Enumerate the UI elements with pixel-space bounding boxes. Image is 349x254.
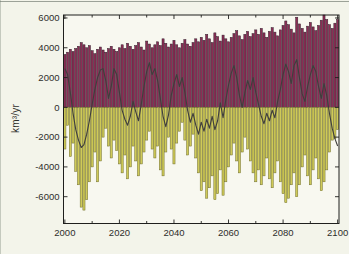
chart-figure: km³/yr 200020202040206020802100-6000-400… <box>0 0 349 254</box>
svg-text:-6000: -6000 <box>35 191 59 202</box>
svg-text:-2000: -2000 <box>35 131 59 142</box>
svg-text:-4000: -4000 <box>35 161 59 172</box>
svg-text:0: 0 <box>54 102 59 113</box>
svg-text:2020: 2020 <box>109 227 130 238</box>
svg-text:2080: 2080 <box>273 227 294 238</box>
svg-text:4000: 4000 <box>38 42 59 53</box>
svg-text:2100: 2100 <box>327 227 348 238</box>
svg-text:2000: 2000 <box>38 72 59 83</box>
svg-text:6000: 6000 <box>38 12 59 23</box>
svg-text:2040: 2040 <box>163 227 184 238</box>
svg-text:2060: 2060 <box>218 227 239 238</box>
chart-canvas: 200020202040206020802100-6000-4000-20000… <box>0 0 349 254</box>
svg-text:2000: 2000 <box>54 227 75 238</box>
